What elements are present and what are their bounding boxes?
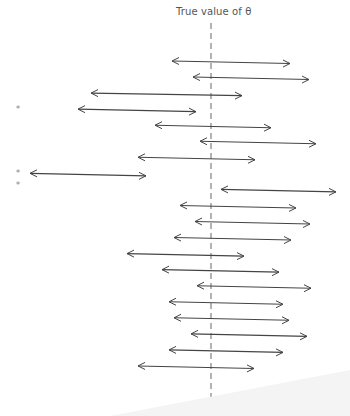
interval-line — [172, 61, 290, 64]
interval-arrow — [191, 330, 307, 340]
interval-arrow — [155, 122, 271, 132]
interval-line — [169, 350, 283, 353]
interval-line — [174, 238, 291, 241]
interval-arrow — [180, 202, 296, 212]
interval-arrow — [174, 314, 289, 324]
interval-line — [221, 189, 336, 192]
interval-arrow — [138, 154, 255, 164]
interval-line — [127, 254, 244, 257]
interval-line — [138, 366, 254, 369]
interval-arrow — [221, 186, 336, 196]
interval-line — [91, 93, 242, 96]
interval-line — [180, 205, 296, 208]
interval-line — [169, 302, 283, 305]
interval-arrow — [127, 250, 244, 260]
miss-marker-asterisk: * — [16, 168, 21, 178]
markers-group: *** — [16, 104, 21, 190]
interval-line — [193, 77, 309, 80]
interval-line — [197, 286, 311, 289]
interval-arrow — [195, 218, 310, 228]
miss-marker-asterisk: * — [16, 104, 21, 114]
interval-line — [162, 270, 279, 273]
interval-arrow — [169, 298, 283, 308]
interval-arrow — [138, 362, 254, 372]
interval-plot: *** — [0, 0, 350, 416]
interval-arrow — [197, 282, 311, 292]
interval-arrow — [200, 138, 316, 148]
interval-arrow — [172, 58, 290, 68]
interval-line — [191, 334, 307, 337]
interval-arrow — [162, 266, 279, 276]
confidence-interval-diagram: True value of θ *** — [0, 0, 350, 416]
intervals-group — [30, 58, 336, 372]
interval-line — [138, 157, 255, 160]
interval-arrow — [174, 234, 291, 244]
interval-line — [78, 109, 196, 112]
interval-line — [155, 125, 271, 128]
interval-line — [174, 318, 289, 321]
interval-arrow — [193, 74, 309, 84]
interval-line — [30, 173, 146, 176]
miss-marker-asterisk: * — [16, 180, 21, 190]
interval-arrow — [91, 90, 242, 100]
interval-line — [200, 141, 316, 144]
interval-arrow — [30, 170, 146, 180]
interval-arrow — [169, 346, 283, 356]
interval-arrow — [78, 106, 196, 116]
interval-line — [195, 222, 310, 225]
